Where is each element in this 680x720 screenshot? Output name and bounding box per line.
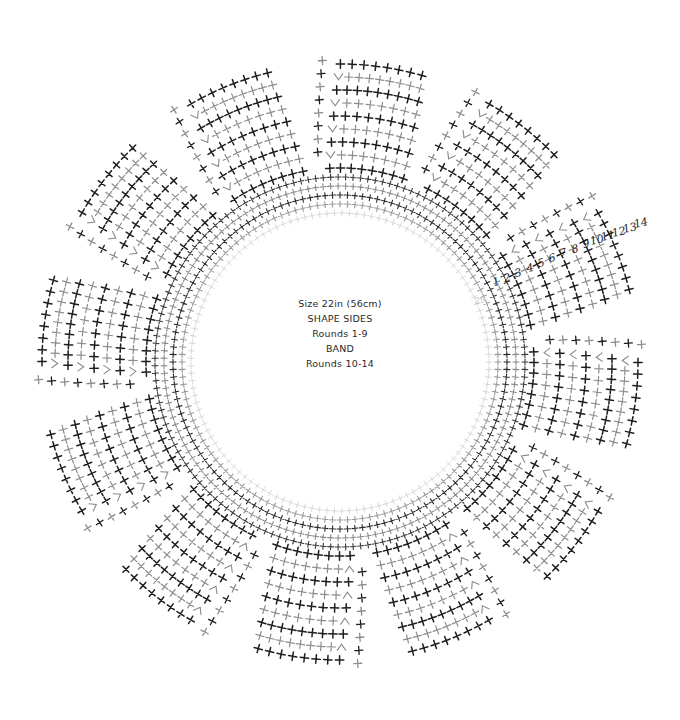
stitch-symbol [430, 477, 435, 482]
stitch-symbol [145, 395, 153, 403]
stitch-symbol [111, 418, 119, 426]
stitch-symbol [201, 628, 208, 635]
stitch-symbol [202, 234, 206, 238]
stitch-symbol [246, 488, 251, 493]
stitch-symbol [194, 318, 200, 324]
stitch-symbol [98, 295, 106, 303]
stitch-symbol [263, 200, 268, 205]
stitch-symbol [255, 236, 260, 241]
stitch-symbol [497, 286, 502, 291]
stitch-symbol [126, 425, 134, 433]
stitch-symbol [106, 171, 113, 178]
stitch-symbol [381, 156, 389, 164]
stitch-symbol [512, 532, 518, 538]
stitch-symbol [336, 60, 344, 68]
stitch-symbol [194, 462, 199, 467]
stitch-symbol [451, 263, 456, 268]
stitch-symbol [330, 604, 338, 612]
stitch-symbol [435, 484, 440, 489]
stitch-symbol [588, 518, 595, 525]
stitch-symbol [176, 118, 183, 125]
stitch-symbol [374, 196, 380, 202]
stitch-symbol [209, 451, 214, 456]
stitch-symbol [493, 459, 498, 464]
band-heading: BAND [240, 341, 440, 356]
stitch-symbol [501, 158, 508, 165]
stitch-symbol [570, 220, 577, 227]
stitch-symbol [265, 209, 270, 214]
stitch-symbol [365, 74, 373, 82]
stitch-symbol [520, 141, 526, 147]
decrease-symbol [570, 350, 576, 359]
stitch-symbol [589, 411, 597, 419]
stitch-symbol [568, 373, 576, 381]
stitch-symbol [309, 589, 317, 597]
stitch-symbol [459, 244, 463, 248]
stitch-symbol [265, 580, 273, 588]
stitch-symbol [261, 232, 266, 237]
stitch-symbol [474, 552, 481, 559]
stitch-symbol [271, 609, 279, 617]
stitch-symbol [256, 193, 261, 198]
stitch-symbol [369, 505, 375, 511]
stitch-symbol [416, 223, 421, 228]
stitch-symbol [182, 203, 188, 209]
stitch-symbol [284, 157, 292, 165]
stitch-symbol [498, 315, 504, 321]
stitch-symbol [198, 267, 203, 272]
stitch-symbol [150, 161, 156, 167]
wedge-10 [35, 276, 161, 388]
stitch-symbol [601, 295, 609, 303]
stitch-symbol [557, 250, 565, 258]
stitch-symbol [552, 457, 559, 464]
stitch-symbol [485, 248, 490, 253]
stitch-symbol [320, 175, 326, 181]
stitch-symbol [563, 464, 570, 471]
stitch-symbol [346, 210, 352, 216]
stitch-symbol [166, 400, 172, 406]
stitch-symbol [553, 565, 559, 571]
wedge-2 [422, 88, 557, 237]
stitch-symbol [462, 457, 467, 462]
stitch-symbol [97, 488, 104, 495]
stitch-symbol [384, 90, 392, 98]
stitch-symbol [442, 207, 447, 212]
stitch-symbol [224, 213, 229, 218]
stitch-symbol [153, 340, 159, 346]
stitch-symbol [161, 304, 167, 310]
stitch-symbol [164, 202, 170, 208]
stitch-symbol [145, 326, 153, 334]
stitch-symbol [394, 183, 400, 189]
stitch-symbol [50, 442, 58, 450]
decrease-symbol [337, 644, 346, 650]
stitch-symbol [293, 511, 299, 517]
stitch-symbol [121, 403, 129, 411]
stitch-symbol [148, 405, 156, 413]
stitch-symbol [278, 213, 284, 219]
stitch-symbol [428, 614, 436, 622]
stitch-symbol [194, 227, 200, 233]
stitch-symbol [488, 432, 493, 437]
stitch-symbol [480, 242, 485, 247]
stitch-symbol [127, 461, 135, 469]
stitch-symbol [528, 251, 535, 258]
stitch-symbol [544, 573, 550, 579]
stitch-symbol [90, 439, 98, 447]
stitch-symbol [489, 499, 495, 505]
stitch-symbol [258, 223, 263, 228]
stitch-symbol [592, 266, 600, 274]
stitch-symbol [372, 541, 378, 547]
stitch-symbol [408, 520, 413, 525]
stitch-symbol [178, 595, 185, 602]
stitch-symbol [337, 526, 343, 532]
stitch-symbol [352, 193, 358, 199]
stitch-symbol [227, 261, 231, 265]
stitch-symbol [274, 161, 282, 169]
stitch-symbol [471, 231, 475, 235]
stitch-symbol [594, 508, 601, 515]
stitch-symbol [237, 574, 244, 581]
stitch-symbol [383, 546, 391, 554]
stitch-symbol [64, 351, 72, 359]
wedge-12 [171, 69, 308, 203]
stitch-symbol [269, 187, 275, 193]
